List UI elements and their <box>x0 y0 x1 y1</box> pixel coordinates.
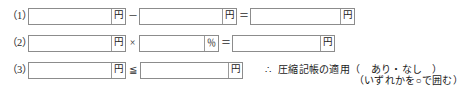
conclusion-text[interactable]: 圧縮記帳の適用（ あり・なし ） <box>278 65 443 75</box>
input-amount-1-value[interactable] <box>29 9 111 24</box>
row-label-2: （2） <box>0 38 28 49</box>
row-label-1: （1） <box>0 11 28 22</box>
unit-label-yen: 円 <box>340 9 354 24</box>
conclusion-statement: ∴ 圧縮記帳の適用（ あり・なし ） <box>265 65 443 75</box>
input-amount-2-value[interactable] <box>140 9 222 24</box>
unit-label-yen: 円 <box>111 36 125 51</box>
input-amount-6[interactable]: 円 <box>28 62 126 79</box>
input-amount-7[interactable]: 円 <box>140 62 243 79</box>
input-amount-1[interactable]: 円 <box>28 8 126 25</box>
unit-label-yen: 円 <box>228 63 242 78</box>
input-amount-7-value[interactable] <box>141 63 228 78</box>
input-amount-3-value[interactable] <box>251 9 340 24</box>
input-amount-4-value[interactable] <box>29 36 111 51</box>
input-amount-5[interactable]: 円 <box>232 35 335 52</box>
operator-less-than-or-equal: ≦ <box>126 65 140 75</box>
input-rate-1[interactable]: ％ <box>139 35 219 52</box>
unit-label-yen: 円 <box>222 9 236 24</box>
unit-label-yen: 円 <box>320 36 334 51</box>
unit-label-yen: 円 <box>111 9 125 24</box>
operator-multiply: × <box>126 38 139 48</box>
input-rate-1-value[interactable] <box>140 36 204 51</box>
operator-minus: － <box>126 11 139 21</box>
operator-equals: ＝ <box>219 38 232 48</box>
unit-label-yen: 円 <box>111 63 125 78</box>
therefore-icon: ∴ <box>265 65 271 75</box>
input-amount-4[interactable]: 円 <box>28 35 126 52</box>
calculation-row-1: （1） 円 － 円 ＝ 円 <box>0 4 469 28</box>
operator-equals: ＝ <box>237 11 250 21</box>
input-amount-6-value[interactable] <box>29 63 111 78</box>
input-amount-5-value[interactable] <box>233 36 320 51</box>
instruction-note: （いずれかを○で囲む） <box>354 76 463 86</box>
input-amount-2[interactable]: 円 <box>139 8 237 25</box>
calculation-form-sheet: （1） 円 － 円 ＝ 円 （2） 円 × ％ ＝ 円 <box>0 0 469 92</box>
unit-label-percent: ％ <box>204 36 218 51</box>
calculation-row-2: （2） 円 × ％ ＝ 円 <box>0 31 469 55</box>
input-amount-3[interactable]: 円 <box>250 8 355 25</box>
row-label-3: （3） <box>0 65 28 76</box>
